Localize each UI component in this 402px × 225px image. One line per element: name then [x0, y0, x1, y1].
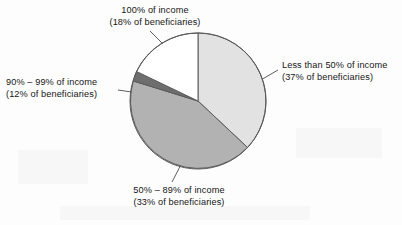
pie-label-less-than-50-line2: (37% of beneficiaries) — [282, 71, 402, 83]
pie-label-50-to-89-line1: 50% – 89% of income — [104, 184, 254, 196]
pie-label-100-percent-line2: (18% of beneficiaries) — [92, 16, 218, 28]
pie-label-90-to-99: 90% – 99% of income (12% of beneficiarie… — [6, 76, 132, 100]
pie-label-50-to-89-line2: (33% of beneficiaries) — [104, 196, 254, 208]
pie-label-100-percent: 100% of income (18% of beneficiaries) — [92, 4, 218, 28]
pie-label-100-percent-line1: 100% of income — [92, 4, 218, 16]
pie-label-50-to-89: 50% – 89% of income (33% of beneficiarie… — [104, 184, 254, 208]
pie-chart-figure: 100% of income (18% of beneficiaries) Le… — [0, 0, 402, 225]
leader-line-bottom — [172, 167, 180, 183]
leader-line-top — [150, 31, 163, 44]
leader-line-right — [263, 70, 279, 79]
pie-label-less-than-50-line1: Less than 50% of income — [282, 59, 402, 71]
pie-label-90-to-99-line2: (12% of beneficiaries) — [6, 88, 132, 100]
pie-label-less-than-50: Less than 50% of income (37% of benefici… — [282, 59, 402, 83]
pie-label-90-to-99-line1: 90% – 99% of income — [6, 76, 132, 88]
